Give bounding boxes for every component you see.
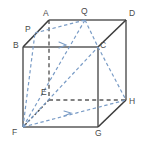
vertex-label-Q: Q <box>81 7 88 16</box>
section-FC <box>23 47 98 127</box>
section-FH <box>23 100 126 127</box>
vertex-label-A: A <box>43 9 49 18</box>
vertex-label-E: E <box>41 88 47 97</box>
vertex-label-H: H <box>129 97 135 106</box>
geometry-figure: A B C D E F G H P Q <box>0 0 150 150</box>
vertex-label-P: P <box>25 25 31 34</box>
section-CH <box>98 47 126 100</box>
cube-diagram <box>0 0 150 150</box>
vertex-label-C: C <box>100 41 106 50</box>
vertex-label-B: B <box>13 41 19 50</box>
vertex-label-D: D <box>129 9 135 18</box>
hidden-edges-group <box>23 20 126 127</box>
vertex-label-G: G <box>95 129 102 138</box>
vertex-label-F: F <box>12 128 17 137</box>
section-QC <box>85 20 98 47</box>
section-FQ <box>23 20 85 127</box>
